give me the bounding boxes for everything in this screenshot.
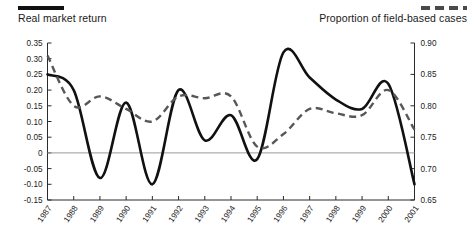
x-axis-tick-label: 1996 xyxy=(272,204,290,224)
right-axis-tick-label: 0.90 xyxy=(421,39,437,48)
x-axis-tick-label: 1990 xyxy=(114,204,132,224)
x-axis-tick-label: 1989 xyxy=(88,204,106,224)
left-axis-tick-label: -0.10 xyxy=(24,180,43,189)
x-axis-tick-label: 1999 xyxy=(350,204,368,224)
left-axis-tick-label: 0.15 xyxy=(27,102,43,111)
left-axis-tick-label: 0.35 xyxy=(27,39,43,48)
x-axis: 1987198819891990199119921993199419951996… xyxy=(36,196,421,224)
chart-figure: Real market return Proportion of field-b… xyxy=(0,0,475,240)
left-axis-tick-label: 0.10 xyxy=(27,118,43,127)
x-axis-tick-label: 1994 xyxy=(219,204,237,224)
x-axis-tick-label: 1997 xyxy=(298,204,316,224)
left-axis: 0.350.300.250.200.150.100.050-0.05-0.10-… xyxy=(24,39,52,205)
series-line-solid xyxy=(48,49,415,184)
chart-plot-area: 0.350.300.250.200.150.100.050-0.05-0.10-… xyxy=(0,0,475,240)
right-axis-tick-label: 0.75 xyxy=(421,133,437,142)
left-axis-tick-label: -0.15 xyxy=(24,196,43,205)
left-axis-tick-label: -0.05 xyxy=(24,165,43,174)
left-axis-tick-label: 0.25 xyxy=(27,70,43,79)
x-axis-tick-label: 1987 xyxy=(36,204,54,224)
left-axis-tick-label: 0.20 xyxy=(27,86,43,95)
left-axis-tick-label: 0 xyxy=(38,149,43,158)
right-axis-tick-label: 0.80 xyxy=(421,102,437,111)
x-axis-tick-label: 2000 xyxy=(377,204,395,224)
x-axis-tick-label: 1998 xyxy=(324,204,342,224)
left-axis-tick-label: 0.05 xyxy=(27,133,43,142)
x-axis-tick-label: 1988 xyxy=(62,204,80,224)
series-line-dashed xyxy=(48,56,415,149)
x-axis-tick-label: 1995 xyxy=(246,204,264,224)
x-axis-tick-label: 1993 xyxy=(193,204,211,224)
right-axis-tick-label: 0.65 xyxy=(421,196,437,205)
right-axis-tick-label: 0.70 xyxy=(421,165,437,174)
x-axis-tick-label: 2001 xyxy=(403,204,421,224)
x-axis-tick-label: 1991 xyxy=(141,204,159,224)
right-axis-tick-label: 0.85 xyxy=(421,70,437,79)
left-axis-tick-label: 0.30 xyxy=(27,55,43,64)
x-axis-tick-label: 1992 xyxy=(167,204,185,224)
data-series xyxy=(48,49,415,184)
